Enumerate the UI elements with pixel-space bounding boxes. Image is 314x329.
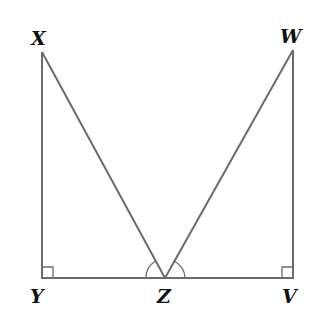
point-label-v: V [282,285,299,307]
point-label-z: Z [156,285,172,307]
point-label-w: W [280,25,303,47]
segment-wz [165,50,293,278]
right-angle-marker-y [42,267,53,278]
point-label-y: Y [30,285,46,307]
angle-arc-wzv [174,261,185,278]
angle-arc-xzy [146,261,156,278]
right-angle-marker-v [282,267,293,278]
segment-xz [42,52,165,278]
point-label-x: X [30,27,47,49]
geometry-diagram: X W Y Z V [0,0,314,329]
